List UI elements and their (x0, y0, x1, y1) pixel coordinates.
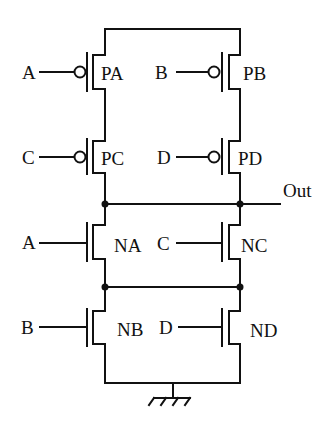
transistor-na (40, 204, 105, 287)
transistor-label-na: NA (114, 235, 142, 256)
input-label-pd: D (157, 147, 171, 168)
transistor-nd (179, 287, 240, 383)
transistor-pa (40, 29, 105, 141)
transistor-label-nd: ND (250, 320, 277, 341)
transistor-nb (40, 287, 105, 383)
transistor-label-pc: PC (101, 148, 124, 169)
input-label-na: A (22, 232, 36, 253)
transistor-nc (177, 204, 240, 287)
transistor-label-pa: PA (101, 63, 124, 84)
inverter-bubble-icon (209, 67, 220, 78)
transistor-label-nc: NC (241, 235, 267, 256)
input-label-nd: D (159, 317, 173, 338)
inverter-bubble-icon (75, 152, 86, 163)
ground-icon (149, 383, 190, 405)
input-label-pc: C (22, 147, 35, 168)
input-label-pb: B (155, 62, 168, 83)
transistor-label-nb: NB (117, 319, 143, 340)
input-label-pa: A (22, 62, 36, 83)
transistor-pc (40, 138, 105, 204)
input-label-nc: C (157, 233, 170, 254)
transistor-label-pb: PB (243, 63, 266, 84)
transistor-pb (177, 29, 240, 141)
cmos-schematic: A PA B PB C PC D PD Out A NA (0, 0, 335, 427)
inverter-bubble-icon (209, 152, 220, 163)
transistor-pd (177, 138, 240, 204)
input-label-nb: B (21, 317, 34, 338)
output-label: Out (283, 180, 312, 201)
transistor-label-pd: PD (238, 148, 262, 169)
inverter-bubble-icon (75, 67, 86, 78)
